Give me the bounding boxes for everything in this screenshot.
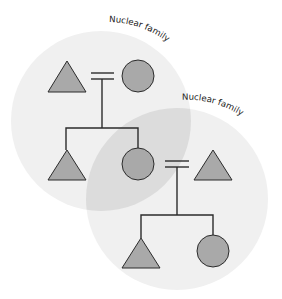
female-circle-icon xyxy=(122,148,154,180)
female-circle-icon xyxy=(197,235,229,267)
female-circle-icon xyxy=(122,60,154,92)
kinship-diagram: Nuclear family Nuclear family xyxy=(0,0,282,299)
